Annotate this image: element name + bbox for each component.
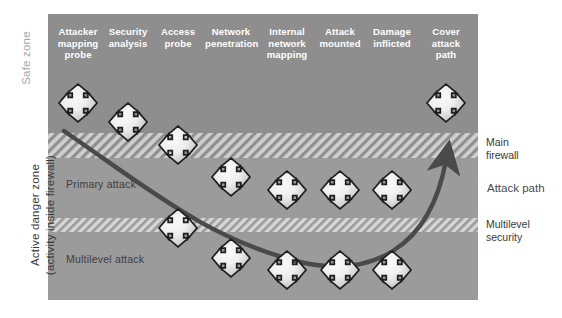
main-firewall-label: Main firewall	[486, 136, 519, 162]
diagram-canvas: Safe zone Active danger zone (activity i…	[0, 0, 562, 318]
safe-zone-axis-label: Safe zone	[20, 10, 32, 106]
multilevel-security-label: Multilevel security	[486, 218, 530, 244]
band-main-firewall	[48, 133, 478, 158]
column-header: Damage inflicted	[366, 26, 418, 49]
column-header: Attack mounted	[314, 26, 366, 49]
column-header: Attacker mapping probe	[52, 26, 104, 61]
danger-zone-axis-label: Active danger zone (activity inside fire…	[28, 120, 58, 310]
column-header: Cover attack path	[420, 26, 472, 61]
column-header: Internal network mapping	[261, 26, 313, 61]
column-header: Security analysis	[102, 26, 154, 49]
column-header: Access probe	[152, 26, 204, 49]
multilevel-attack-caption: Multilevel attack	[66, 253, 144, 265]
band-multilevel-attack	[48, 232, 478, 300]
primary-attack-caption: Primary attack	[66, 178, 136, 190]
attack-path-label: Attack path	[487, 182, 545, 195]
band-multilevel-security	[48, 218, 478, 232]
column-header: Network penetration	[205, 26, 257, 49]
